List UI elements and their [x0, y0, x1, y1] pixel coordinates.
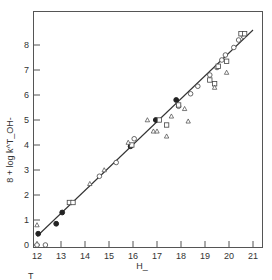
y-tick-label: 6: [24, 90, 29, 100]
y-axis-label: 8 + log k^T_OH-: [5, 117, 15, 183]
x-tick-label: 20: [224, 251, 234, 261]
x-tick-label: 16: [128, 251, 138, 261]
open-square-marker: [242, 32, 246, 36]
open-triangle-marker: [182, 106, 186, 110]
y-tick-label: 7: [24, 65, 29, 75]
open-circle-marker: [223, 53, 228, 58]
scatter-chart: 012345678 12131415161718192021 H_ 8 + lo…: [0, 0, 272, 280]
y-tick-label: 5: [24, 115, 29, 125]
open-circle-marker: [220, 58, 225, 63]
open-square-marker: [164, 123, 168, 127]
filled-circle-marker: [54, 221, 59, 226]
filled-circle-marker: [60, 210, 65, 215]
open-triangle-marker: [224, 70, 228, 74]
y-tick-label: 4: [24, 140, 29, 150]
x-axis-label: H_: [136, 261, 148, 271]
open-circle-marker: [97, 174, 102, 179]
open-circle-marker: [35, 243, 40, 248]
open-circle-marker: [196, 84, 201, 89]
open-triangle-marker: [169, 114, 173, 118]
x-tick-label: 17: [152, 251, 162, 261]
filled-circle-marker: [36, 231, 41, 236]
open-square-marker: [224, 59, 228, 63]
x-tick-label: 13: [56, 251, 66, 261]
open-triangle-marker: [102, 168, 106, 172]
y-tick-label: 2: [24, 190, 29, 200]
open-triangle-marker: [145, 118, 149, 122]
open-triangle-marker: [126, 140, 130, 144]
footnote-mark: T: [28, 271, 34, 280]
open-triangle-marker: [164, 134, 168, 138]
open-triangle-marker: [35, 223, 39, 227]
open-circle-marker: [132, 136, 137, 141]
open-triangle-marker: [186, 119, 190, 123]
y-axis-ticks: 012345678: [24, 40, 40, 250]
data-points: [35, 32, 247, 248]
open-circle-marker: [43, 243, 48, 248]
x-tick-label: 18: [176, 251, 186, 261]
x-tick-label: 21: [248, 251, 258, 261]
open-square-marker: [216, 64, 220, 68]
open-circle-marker: [236, 38, 241, 43]
y-tick-label: 3: [24, 165, 29, 175]
x-tick-label: 14: [80, 251, 90, 261]
x-tick-label: 15: [104, 251, 114, 261]
open-square-marker: [176, 103, 180, 107]
y-tick-label: 1: [24, 215, 29, 225]
open-circle-marker: [188, 91, 193, 96]
open-triangle-marker: [88, 181, 92, 185]
y-tick-label: 8: [24, 40, 29, 50]
open-square-marker: [157, 118, 161, 122]
y-tick-label: 0: [24, 240, 29, 250]
open-circle-marker: [208, 73, 213, 78]
open-circle-marker: [232, 45, 237, 50]
filled-circle-marker: [174, 98, 179, 103]
open-square-marker: [71, 200, 75, 204]
x-tick-label: 12: [32, 251, 42, 261]
open-square-marker: [208, 78, 212, 82]
x-axis-ticks: 12131415161718192021: [32, 241, 258, 261]
x-tick-label: 19: [200, 251, 210, 261]
open-triangle-marker: [155, 129, 159, 133]
open-circle-marker: [114, 160, 119, 165]
